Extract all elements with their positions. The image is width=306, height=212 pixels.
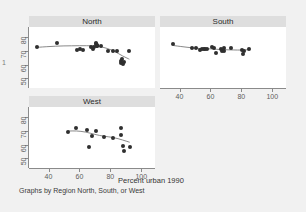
- edge-marker: 1: [2, 59, 6, 66]
- data-point: [205, 47, 209, 51]
- panel-north: North 50607080: [29, 16, 155, 88]
- data-point: [128, 145, 132, 149]
- data-point: [212, 46, 216, 50]
- data-point: [247, 47, 251, 51]
- panel-south: South 406080100: [160, 16, 286, 88]
- x-axis-tick: [180, 89, 181, 92]
- plot-area-west: [29, 107, 155, 168]
- x-axis-tick: [210, 89, 211, 92]
- plot-area-south: [160, 27, 286, 88]
- x-axis-tick: [241, 89, 242, 92]
- data-point: [55, 41, 59, 45]
- plot-area-north: [29, 27, 155, 88]
- lowess-smoother-south: [160, 27, 286, 88]
- y-axis-tick-label: 80: [20, 36, 27, 52]
- y-axis-line: [28, 107, 29, 168]
- x-axis-tick-label: 80: [231, 93, 251, 100]
- figure-canvas: 1 North 50607080 South 406080100 West 50…: [0, 0, 306, 212]
- data-point: [99, 44, 103, 48]
- data-point: [106, 49, 110, 53]
- data-point: [190, 46, 194, 50]
- x-axis-tick-label: 60: [69, 173, 89, 180]
- panel-west: West 50607080406080100: [29, 96, 155, 168]
- x-axis-tick-label: 100: [262, 93, 282, 100]
- x-axis-tick: [49, 169, 50, 172]
- data-point: [119, 133, 123, 137]
- x-axis-tick: [272, 89, 273, 92]
- x-axis-tick-label: 60: [200, 93, 220, 100]
- data-point: [35, 45, 39, 49]
- data-point: [122, 60, 126, 64]
- x-axis-tick-label: 40: [170, 93, 190, 100]
- x-axis-tick: [141, 169, 142, 172]
- data-point: [85, 128, 89, 132]
- panel-title-north: North: [29, 16, 155, 27]
- data-point: [229, 46, 233, 50]
- figure-note: Graphs by Region North, South, or West: [19, 187, 145, 194]
- x-axis-tick-label: 40: [39, 173, 59, 180]
- x-axis-tick: [79, 169, 80, 172]
- lowess-smoother-north: [29, 27, 155, 88]
- data-point: [66, 130, 70, 134]
- data-point: [74, 126, 78, 130]
- x-axis-tick: [110, 169, 111, 172]
- y-axis-tick-label: 80: [20, 116, 27, 132]
- data-point: [119, 126, 123, 130]
- data-point: [122, 149, 126, 153]
- x-axis-title: Percent urban 1990: [118, 176, 184, 185]
- y-axis-line: [28, 27, 29, 88]
- data-point: [242, 49, 246, 53]
- data-point: [115, 49, 119, 53]
- data-point: [214, 51, 218, 55]
- panel-title-south: South: [160, 16, 286, 27]
- panel-title-west: West: [29, 96, 155, 107]
